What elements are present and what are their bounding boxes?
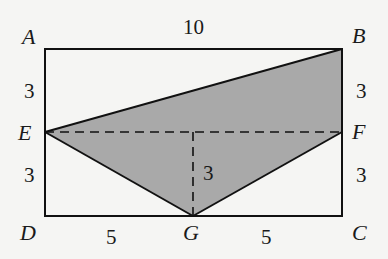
measure-GC: 5 <box>261 225 272 249</box>
measure-AE: 3 <box>24 79 35 103</box>
label-D: D <box>19 220 36 245</box>
label-A: A <box>20 24 36 49</box>
measure-FC: 3 <box>356 163 367 187</box>
measure-BF: 3 <box>356 79 367 103</box>
measure-ED: 3 <box>24 163 35 187</box>
geometry-diagram: A B E F D G C 10 3 3 3 3 5 5 3 <box>0 0 388 259</box>
measure-DG: 5 <box>106 225 117 249</box>
measure-height-G: 3 <box>203 161 214 185</box>
label-E: E <box>17 120 32 145</box>
label-B: B <box>352 23 365 48</box>
label-G: G <box>183 220 199 245</box>
label-C: C <box>352 220 367 245</box>
label-F: F <box>351 119 366 144</box>
diagram-canvas: A B E F D G C 10 3 3 3 3 5 5 3 <box>0 0 388 259</box>
measure-AB: 10 <box>183 15 204 39</box>
